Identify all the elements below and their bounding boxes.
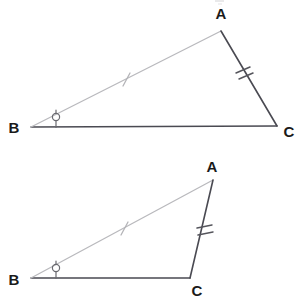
lower-vertex-label-c: C: [192, 282, 203, 299]
lower-side-ba: [31, 180, 213, 278]
upper-vertex-label-c: C: [284, 123, 295, 140]
upper-side-ba: [31, 31, 221, 127]
upper-side-bc: [31, 126, 277, 127]
upper-tick-double-ac: [236, 67, 253, 79]
upper-vertex-label-b: B: [9, 119, 20, 136]
upper-vertex-label-a: A: [216, 5, 227, 22]
upper-triangle: A B C: [9, 5, 295, 140]
lower-vertex-label-b: B: [9, 271, 20, 288]
figure-canvas: A B C: [0, 0, 302, 308]
geometry-figure: A B C: [0, 0, 302, 308]
lower-triangle: A B C: [9, 158, 218, 299]
lower-tick-double-ac: [197, 225, 213, 235]
lower-vertex-label-a: A: [207, 158, 218, 175]
lower-side-ac: [190, 180, 213, 278]
upper-side-ac: [221, 31, 277, 126]
